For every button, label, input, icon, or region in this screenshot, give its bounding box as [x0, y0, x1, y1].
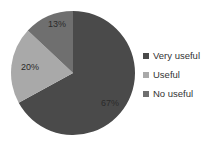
legend: Very useful Useful No useful: [143, 46, 200, 103]
legend-swatch: [143, 91, 149, 97]
legend-swatch: [143, 72, 149, 78]
pie-chart: 67%20%13%: [0, 0, 140, 142]
legend-label: Useful: [153, 69, 180, 80]
legend-swatch: [143, 53, 149, 59]
legend-item-no-useful: No useful: [143, 84, 200, 103]
data-label: 13%: [48, 19, 66, 29]
legend-item-useful: Useful: [143, 65, 200, 84]
legend-label: No useful: [153, 88, 193, 99]
legend-item-very-useful: Very useful: [143, 46, 200, 65]
data-label: 67%: [101, 98, 119, 108]
legend-label: Very useful: [153, 50, 200, 61]
data-label: 20%: [21, 62, 39, 72]
